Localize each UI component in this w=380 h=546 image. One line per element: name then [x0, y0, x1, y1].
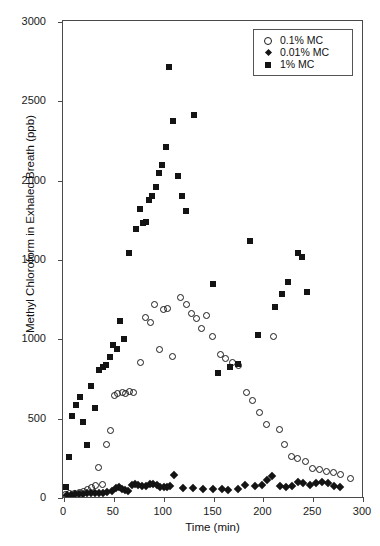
- data-point: [84, 442, 90, 448]
- data-point: [227, 364, 233, 370]
- x-axis-tick-label: 300: [342, 506, 380, 517]
- y-axis-tick-label: 2500: [22, 95, 46, 106]
- data-point: [316, 466, 323, 473]
- data-point: [130, 389, 137, 396]
- data-point: [235, 361, 241, 367]
- data-point: [210, 281, 216, 287]
- y-axis-tick-label: 2000: [22, 175, 46, 186]
- data-point: [279, 291, 285, 297]
- y-axis-tick-label: 1000: [22, 333, 46, 344]
- data-point: [323, 468, 330, 475]
- data-point: [69, 413, 75, 419]
- x-axis-tick-label: 150: [193, 506, 233, 517]
- data-point: [149, 193, 155, 199]
- data-point: [159, 162, 165, 168]
- data-point: [114, 346, 120, 352]
- legend-marker-glyph: [265, 62, 271, 68]
- data-point: [330, 469, 337, 476]
- data-point: [133, 226, 139, 232]
- data-point: [166, 64, 172, 70]
- filled-diamond-icon: [256, 50, 280, 55]
- data-point: [285, 279, 291, 285]
- data-point: [80, 419, 86, 425]
- y-axis-tick-label: 500: [28, 413, 46, 424]
- y-axis-tick-label: 3000: [22, 16, 46, 27]
- x-axis-tick-label: 250: [292, 506, 332, 517]
- y-axis-tick: [58, 498, 63, 499]
- data-point: [299, 254, 305, 260]
- data-point: [169, 353, 176, 360]
- data-point: [77, 394, 83, 400]
- legend-item-label: 0.01% MC: [280, 47, 329, 58]
- chart-legend: 0.1% MC0.01% MC1% MC: [253, 29, 353, 76]
- legend-item: 1% MC: [256, 59, 350, 70]
- data-point: [203, 312, 210, 319]
- data-point: [222, 355, 229, 362]
- data-point: [88, 383, 94, 389]
- data-point: [183, 208, 189, 214]
- data-point: [294, 455, 301, 462]
- data-point: [309, 465, 316, 472]
- data-point: [263, 421, 270, 428]
- data-point: [183, 301, 190, 308]
- y-axis-tick: [58, 181, 63, 182]
- data-point: [198, 485, 206, 493]
- x-axis-tick-label: 50: [93, 506, 133, 517]
- data-point: [191, 112, 197, 118]
- y-axis-tick-label: 0: [40, 492, 46, 503]
- filled-square-icon: [256, 62, 280, 68]
- legend-item-label: 1% MC: [280, 59, 314, 70]
- y-axis-tick: [58, 339, 63, 340]
- data-point: [163, 144, 169, 150]
- data-point: [107, 354, 113, 360]
- data-point: [143, 219, 149, 225]
- data-point: [198, 325, 205, 332]
- x-axis-tick-label: 0: [43, 506, 83, 517]
- data-point: [153, 184, 159, 190]
- data-point: [137, 206, 143, 212]
- data-point: [270, 333, 277, 340]
- legend-marker-glyph: [264, 37, 272, 45]
- data-point: [121, 336, 127, 342]
- x-axis-tick-label: 200: [242, 506, 282, 517]
- data-point: [95, 464, 102, 471]
- data-point: [99, 481, 106, 488]
- data-point: [256, 409, 263, 416]
- x-axis-title: Time (min): [62, 521, 363, 533]
- data-point: [63, 484, 69, 490]
- data-point: [156, 346, 163, 353]
- legend-marker-glyph: [264, 49, 271, 56]
- data-point: [151, 301, 158, 308]
- data-point: [247, 238, 253, 244]
- data-point: [224, 485, 232, 493]
- data-point: [347, 475, 354, 482]
- x-axis-tick-label: 100: [143, 506, 183, 517]
- data-point: [175, 173, 181, 179]
- y-axis-tick: [58, 101, 63, 102]
- data-point: [103, 362, 109, 368]
- data-point: [188, 484, 196, 492]
- data-point: [156, 170, 162, 176]
- data-point: [103, 441, 110, 448]
- data-point: [92, 405, 98, 411]
- data-point: [276, 426, 283, 433]
- data-point: [243, 389, 250, 396]
- data-point: [215, 370, 221, 376]
- plot-area: [63, 21, 362, 497]
- data-point: [73, 402, 79, 408]
- y-axis-tick: [58, 260, 63, 261]
- plot-frame: 0.1% MC0.01% MC1% MC: [62, 20, 363, 498]
- data-point: [177, 294, 184, 301]
- data-point: [117, 318, 123, 324]
- data-point: [272, 304, 278, 310]
- data-point: [281, 441, 288, 448]
- data-point: [209, 333, 216, 340]
- data-point: [249, 397, 256, 404]
- legend-item: 0.1% MC: [256, 35, 350, 46]
- data-point: [336, 483, 344, 491]
- x-axis-tick-labels: 050100150200250300: [62, 502, 363, 518]
- data-point: [66, 454, 72, 460]
- legend-item: 0.01% MC: [256, 47, 350, 58]
- data-point: [178, 484, 186, 492]
- y-axis-tick-labels: 050010001500200025003000: [0, 20, 57, 498]
